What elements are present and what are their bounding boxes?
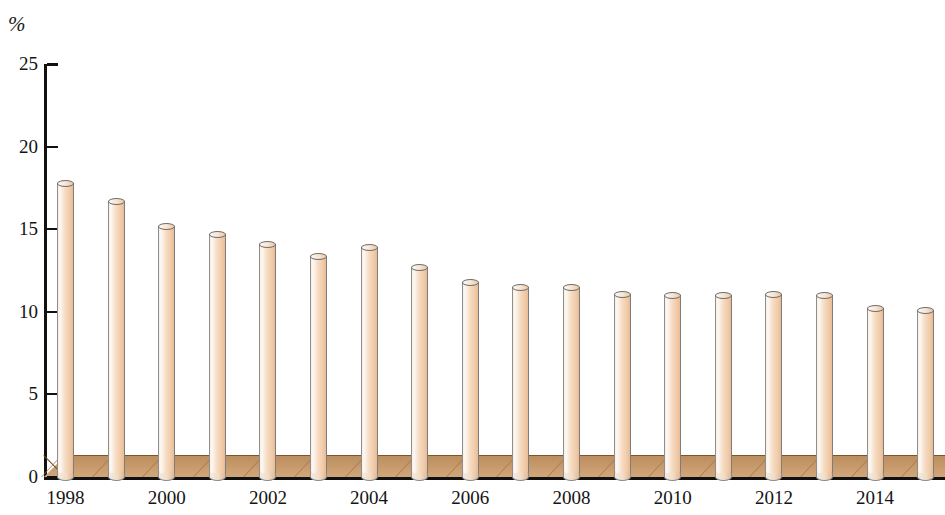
y-axis-tick-label: 25 — [2, 54, 38, 73]
bar-top-ellipse — [765, 291, 782, 298]
x-axis-tick-label: 2014 — [840, 488, 910, 508]
bar-2002 — [259, 244, 276, 477]
bar-body — [816, 295, 833, 477]
bar-2015 — [917, 310, 934, 477]
bar-2001 — [209, 234, 226, 477]
bar-body — [462, 282, 479, 477]
bar-body — [765, 294, 782, 477]
bar-body — [715, 295, 732, 477]
bar-body — [209, 234, 226, 477]
y-axis-tick-label: 20 — [2, 137, 38, 156]
bar-body — [411, 267, 428, 477]
y-axis-line — [44, 64, 47, 479]
x-axis-tick-label: 2010 — [638, 488, 708, 508]
bar-2011 — [715, 295, 732, 477]
plot-area: 0510152025 19982000200220042006200820102… — [0, 0, 945, 515]
bar-body — [361, 247, 378, 477]
bar-base-ellipse — [715, 473, 732, 481]
bar-2014 — [867, 308, 884, 477]
bar-body — [867, 308, 884, 477]
x-axis-tick-label: 1998 — [31, 488, 101, 508]
x-axis-tick-label: 2006 — [435, 488, 505, 508]
y-axis-tick-label: 0 — [2, 467, 38, 486]
bar-base-ellipse — [867, 473, 884, 481]
bar-base-ellipse — [310, 473, 327, 481]
bar-body — [57, 183, 74, 477]
bar-2008 — [563, 287, 580, 477]
floor-slab — [44, 455, 945, 479]
bar-body — [259, 244, 276, 477]
y-axis-tick — [47, 63, 58, 66]
bar-2000 — [158, 226, 175, 477]
bar-top-ellipse — [108, 198, 125, 205]
y-axis-tick-label: 10 — [2, 302, 38, 321]
bar-base-ellipse — [209, 473, 226, 481]
bar-base-ellipse — [614, 473, 631, 481]
bar-body — [664, 295, 681, 477]
bar-1999 — [108, 201, 125, 477]
bar-2012 — [765, 294, 782, 477]
bar-base-ellipse — [361, 473, 378, 481]
y-axis-tick-label: 15 — [2, 219, 38, 238]
y-axis-tick-label: 5 — [2, 384, 38, 403]
bar-top-ellipse — [310, 253, 327, 260]
bar-body — [917, 310, 934, 477]
x-axis-tick-label: 2000 — [132, 488, 202, 508]
bar-2006 — [462, 282, 479, 477]
bar-top-ellipse — [209, 231, 226, 238]
bar-body — [563, 287, 580, 477]
bar-body — [614, 294, 631, 477]
bar-body — [158, 226, 175, 477]
bar-2005 — [411, 267, 428, 477]
bar-2003 — [310, 256, 327, 477]
x-axis-tick-label: 2002 — [233, 488, 303, 508]
bar-body — [108, 201, 125, 477]
bar-top-ellipse — [462, 279, 479, 286]
bar-2007 — [512, 287, 529, 477]
bar-2013 — [816, 295, 833, 477]
bar-body — [512, 287, 529, 477]
bar-body — [310, 256, 327, 477]
bar-1998 — [57, 183, 74, 477]
bar-base-ellipse — [816, 473, 833, 481]
bar-top-ellipse — [158, 223, 175, 230]
x-axis-tick-label: 2012 — [739, 488, 809, 508]
x-axis-tick-label: 2008 — [537, 488, 607, 508]
bar-2009 — [614, 294, 631, 477]
bar-top-ellipse — [57, 180, 74, 187]
bar-base-ellipse — [57, 473, 74, 481]
bar-base-ellipse — [462, 473, 479, 481]
y-axis-tick — [47, 146, 58, 148]
bar-2010 — [664, 295, 681, 477]
x-axis-tick-label: 2004 — [334, 488, 404, 508]
bar-2004 — [361, 247, 378, 477]
floor-back-edge — [66, 455, 945, 456]
bar-base-ellipse — [563, 473, 580, 481]
bar-top-ellipse — [563, 284, 580, 291]
bar-top-ellipse — [614, 291, 631, 298]
chart-root: % 0510152025 199820002002200420062008201… — [0, 0, 945, 515]
bar-base-ellipse — [108, 473, 125, 481]
